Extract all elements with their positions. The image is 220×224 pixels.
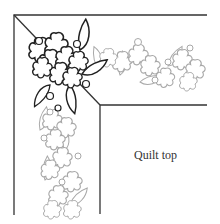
quilt-corner-diagram	[0, 0, 220, 224]
corner-flower-cluster	[28, 19, 108, 113]
quilt-top-label: Quilt top	[134, 148, 177, 163]
left-border-vine	[32, 107, 91, 219]
top-border-vine	[90, 39, 205, 92]
